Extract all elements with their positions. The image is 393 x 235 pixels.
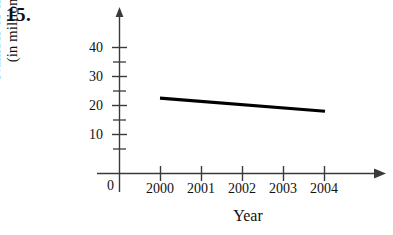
x-tick-label-2003: 2003 bbox=[261, 182, 305, 196]
x-tick-label-2000: 2000 bbox=[138, 182, 182, 196]
y-tick-label-10: 10 bbox=[77, 128, 103, 142]
data-series-line bbox=[160, 98, 325, 111]
origin-label: 0 bbox=[107, 179, 114, 193]
y-tick-label-40: 40 bbox=[77, 41, 103, 55]
x-axis-arrowhead-icon bbox=[374, 168, 386, 178]
x-axis-title: Year bbox=[188, 208, 308, 224]
x-tick-label-2002: 2002 bbox=[220, 182, 264, 196]
x-tick-label-2004: 2004 bbox=[302, 182, 346, 196]
y-tick-label-20: 20 bbox=[77, 99, 103, 113]
chart-figure: 15. Number of crimes (in millions) bbox=[0, 0, 393, 235]
chart-plot-area bbox=[0, 0, 393, 235]
y-tick-label-30: 30 bbox=[77, 70, 103, 84]
x-tick-label-2001: 2001 bbox=[179, 182, 223, 196]
y-axis-arrowhead-icon bbox=[116, 7, 124, 17]
